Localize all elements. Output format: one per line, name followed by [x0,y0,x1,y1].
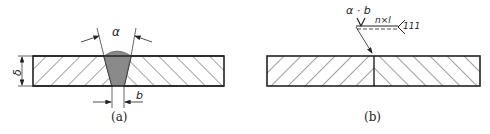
left-plate-a [33,56,112,86]
right-plate-a [124,56,224,86]
v-groove-icon [357,18,365,26]
figure-b: α · b n×l 111 (b) [267,4,480,124]
figure-a: α δ b (a) [11,25,224,124]
weld-diagram: α δ b (a) α · b n×l [0,0,490,134]
left-plate-b [267,56,374,86]
gap-label: b [136,89,143,102]
caption-b: (b) [364,110,381,124]
right-plate-b [374,56,480,86]
length-label: n×l [375,15,391,25]
thickness-label: δ [11,69,24,76]
process-number: 111 [403,21,420,31]
caption-a: (a) [111,110,128,124]
angle-label: α [112,25,120,39]
symbol-top-label: α · b [346,4,371,17]
